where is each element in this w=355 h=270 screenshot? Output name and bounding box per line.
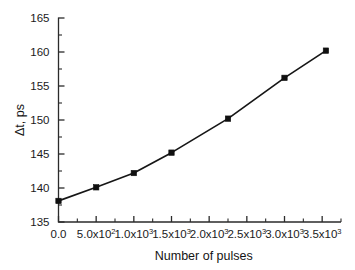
data-marker	[56, 198, 61, 203]
x-tick-label-text-7: 3.5x103	[303, 227, 342, 241]
y-tick-label-3: 150	[30, 114, 49, 126]
y-tick-label-6: 165	[30, 12, 49, 24]
y-tick-label-1: 140	[30, 182, 49, 194]
chart-figure: 1351401451501551601650.05.0x1021.0x1031.…	[0, 0, 355, 270]
data-marker	[131, 170, 136, 175]
y-tick-label-0: 135	[30, 216, 49, 228]
y-tick-label-2: 145	[30, 148, 49, 160]
y-tick-label-4: 155	[30, 80, 49, 92]
data-marker	[225, 116, 230, 121]
plot-area: 1351401451501551601650.05.0x1021.0x1031.…	[0, 0, 355, 270]
x-tick-label-2: 1.0x103	[114, 227, 153, 241]
x-tick-label-5: 2.5x103	[227, 227, 266, 241]
x-tick-label-3: 1.5x103	[152, 227, 191, 241]
axis-lines	[59, 18, 342, 223]
y-tick-label-5: 160	[30, 46, 49, 58]
x-tick-label-text-4: 2.0x103	[190, 227, 229, 241]
x-tick-label-text-3: 1.5x103	[152, 227, 191, 241]
x-tick-label-text-5: 2.5x103	[227, 227, 266, 241]
x-tick-label-0: 0.0	[51, 228, 67, 240]
data-marker	[93, 185, 98, 190]
x-tick-label-text-2: 1.0x103	[114, 227, 153, 241]
x-tick-label-6: 3.0x103	[265, 227, 304, 241]
data-marker	[169, 150, 174, 155]
x-tick-label-4: 2.0x103	[190, 227, 229, 241]
x-tick-label-1: 5.0x102	[77, 227, 116, 241]
x-tick-label-text-1: 5.0x102	[77, 227, 116, 241]
x-tick-label-text-0: 0.0	[51, 228, 67, 240]
x-tick-label-7: 3.5x103	[303, 227, 342, 241]
data-marker	[323, 48, 328, 53]
data-marker	[282, 75, 287, 80]
x-axis-title: Number of pulses	[155, 249, 253, 263]
data-line-0	[59, 51, 326, 201]
y-axis-title: Δt, ps	[13, 104, 27, 136]
x-tick-label-text-6: 3.0x103	[265, 227, 304, 241]
